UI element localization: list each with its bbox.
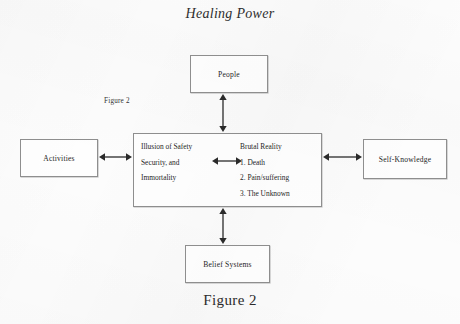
center-right-column: Brutal Reality 1. Death 2. Pain/sufferin…	[240, 139, 290, 201]
center-left-line-3: Immortality	[141, 170, 192, 186]
node-self-knowledge: Self-Knowledge	[363, 139, 447, 179]
center-right-item-3: 3. The Unknown	[240, 186, 290, 202]
node-activities-label: Activities	[43, 154, 75, 163]
node-belief-systems: Belief Systems	[185, 245, 270, 283]
node-self-knowledge-label: Self-Knowledge	[379, 155, 432, 164]
center-left-line-2: Security, and	[141, 155, 192, 171]
arrow-illusion-to-reality	[212, 156, 242, 166]
center-right-item-1: 1. Death	[240, 155, 290, 171]
center-left-line-1: Illusion of Safety	[141, 139, 192, 155]
node-activities: Activities	[20, 139, 98, 177]
arrow-center-to-belief-systems	[218, 208, 228, 244]
figure-title: Healing Power	[0, 6, 460, 22]
figure-caption: Figure 2	[0, 292, 460, 309]
center-right-heading: Brutal Reality	[240, 139, 290, 155]
node-belief-systems-label: Belief Systems	[203, 260, 252, 269]
node-people: People	[190, 55, 268, 93]
arrow-center-to-self-knowledge	[323, 152, 362, 162]
figure-canvas: Healing Power Figure 2 People Activities…	[0, 0, 460, 324]
center-left-column: Illusion of Safety Security, and Immorta…	[141, 139, 192, 186]
inline-figure-label: Figure 2	[104, 97, 130, 105]
arrow-activities-to-center	[99, 152, 132, 162]
node-center-box: Illusion of Safety Security, and Immorta…	[133, 133, 322, 207]
node-people-label: People	[218, 70, 240, 79]
center-right-item-2: 2. Pain/suffering	[240, 170, 290, 186]
arrow-people-to-center	[218, 94, 228, 132]
